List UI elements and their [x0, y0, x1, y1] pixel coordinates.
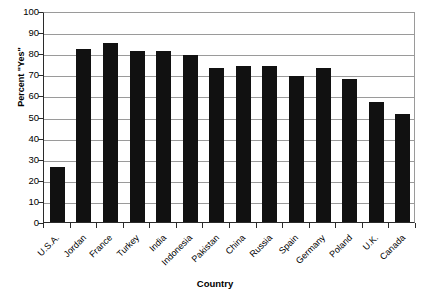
bar-chart: Percent "Yes" 1009080706050403020100 U.S…: [0, 0, 430, 298]
x-axis-tick-mark: [282, 223, 283, 228]
bar: [209, 68, 224, 222]
gridline: [44, 161, 414, 162]
bar: [50, 167, 65, 222]
y-axis-tick-label: 70: [13, 70, 39, 80]
bar: [369, 102, 384, 222]
gridline: [44, 34, 414, 35]
gridline: [44, 140, 414, 141]
gridline: [44, 182, 414, 183]
x-axis-tick-mark: [43, 223, 44, 228]
y-axis-tick-label: 80: [13, 49, 39, 59]
y-axis-tick-label: 30: [13, 155, 39, 165]
x-axis-title: Country: [0, 278, 430, 289]
x-axis-tick-mark: [149, 223, 150, 228]
x-axis-tick-mark: [335, 223, 336, 228]
bar: [103, 43, 118, 222]
x-axis-tick-mark: [123, 223, 124, 228]
gridline: [44, 76, 414, 77]
x-axis-tick-mark: [70, 223, 71, 228]
x-axis-tick-mark: [362, 223, 363, 228]
x-axis-tick-mark: [176, 223, 177, 228]
bar: [395, 114, 410, 222]
y-axis-tick-label: 20: [13, 176, 39, 186]
y-axis-tick-label: 10: [13, 197, 39, 207]
x-axis-tick-mark: [96, 223, 97, 228]
x-axis-tick-mark: [309, 223, 310, 228]
bar: [262, 66, 277, 222]
bar: [289, 76, 304, 222]
y-axis-tick-label: 0: [13, 218, 39, 228]
gridline: [44, 55, 414, 56]
gridline: [44, 97, 414, 98]
x-axis-tick-mark: [256, 223, 257, 228]
y-axis-tick-label: 100: [13, 7, 39, 17]
bar: [316, 68, 331, 222]
bar: [183, 55, 198, 222]
y-axis-tick-label: 50: [13, 113, 39, 123]
x-axis-tick-mark: [388, 223, 389, 228]
bar: [236, 66, 251, 222]
x-axis-tick-mark: [415, 223, 416, 228]
plot-area: [43, 12, 415, 223]
y-axis-tick-label: 90: [13, 28, 39, 38]
y-axis-tick-label: 40: [13, 134, 39, 144]
bar: [342, 79, 357, 222]
y-axis-tick-label: 60: [13, 91, 39, 101]
x-axis-tick-mark: [202, 223, 203, 228]
gridline: [44, 203, 414, 204]
bar: [156, 51, 171, 222]
bar: [130, 51, 145, 222]
bar: [76, 49, 91, 222]
gridline: [44, 119, 414, 120]
x-axis-tick-mark: [229, 223, 230, 228]
